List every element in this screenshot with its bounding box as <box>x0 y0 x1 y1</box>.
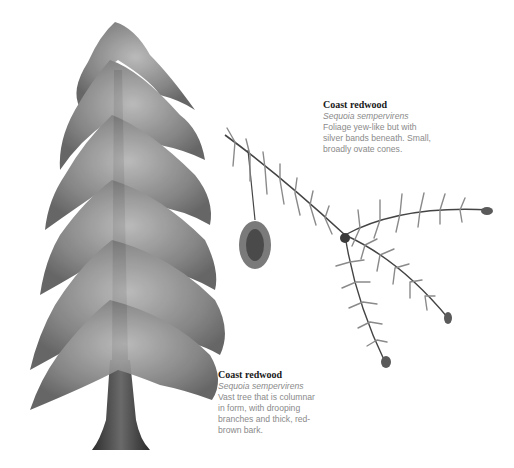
tree-caption-line: Vast tree that is columnar <box>218 392 315 403</box>
tree-caption-line: in form, with drooping <box>218 403 315 414</box>
tree-foliage <box>30 22 225 410</box>
branch-caption-line: silver bands beneath. Small, <box>323 133 431 144</box>
tree-caption-line: brown bark. <box>218 425 315 436</box>
branch-caption-title: Coast redwood <box>323 99 431 111</box>
tree-caption: Coast redwood Sequoia sempervirens Vast … <box>218 369 315 436</box>
branch-caption-scientific-name: Sequoia sempervirens <box>323 111 431 122</box>
tree-caption-line: branches and thick, red- <box>218 414 315 425</box>
branch-caption-line: Foliage yew-like but with <box>323 122 431 133</box>
tree-caption-title: Coast redwood <box>218 369 315 381</box>
branch-caption: Coast redwood Sequoia sempervirens Folia… <box>323 99 431 155</box>
tree-caption-scientific-name: Sequoia sempervirens <box>218 381 315 392</box>
cones <box>239 207 493 368</box>
branch-caption-line: broadly ovate cones. <box>323 144 431 155</box>
